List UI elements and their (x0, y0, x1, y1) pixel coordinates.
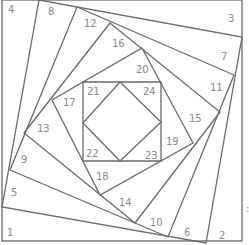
piece-label: 11 (210, 82, 223, 93)
piece-label: 23 (145, 150, 158, 161)
piece-label: 5 (11, 187, 17, 198)
piece-label: 4 (8, 4, 14, 15)
piece-label: 8 (48, 6, 54, 17)
piece-label: 15 (189, 113, 202, 124)
piece-label: 19 (166, 136, 179, 147)
piece-label: 13 (37, 123, 50, 134)
piece-label: 9 (21, 154, 27, 165)
piece-label: 1 (7, 227, 13, 238)
piece-label: 7 (221, 51, 227, 62)
piece-label: 17 (63, 97, 76, 108)
piece-label: : (246, 203, 249, 214)
spiral-pattern-diagram: 123456789101112131415161718192021222324: (0, 0, 249, 245)
piece-label: 21 (87, 86, 100, 97)
piece-label: 22 (86, 148, 99, 159)
piece-label: 10 (150, 217, 163, 228)
piece-label: 6 (184, 227, 190, 238)
piece-label: 12 (84, 18, 97, 29)
piece-label: 20 (136, 64, 149, 75)
piece-label: 16 (112, 38, 125, 49)
piece-label: 3 (228, 13, 234, 24)
piece-label: 18 (96, 171, 109, 182)
piece-label: 24 (143, 86, 156, 97)
piece-label: 14 (119, 197, 132, 208)
piece-label: 2 (219, 230, 225, 241)
